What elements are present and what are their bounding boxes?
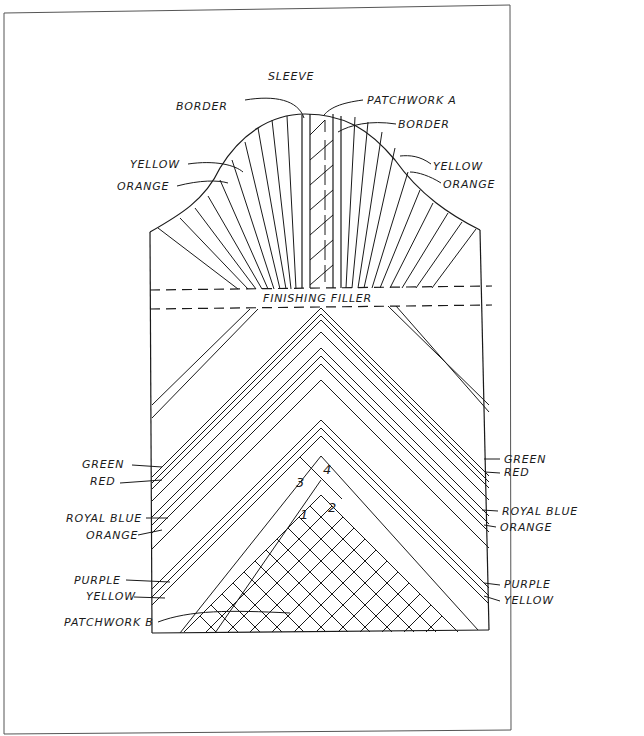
- cap-ray-right: [380, 190, 420, 288]
- hatch-line: [255, 561, 326, 632]
- chevron-line: [152, 348, 321, 517]
- section-number-1: 1: [300, 507, 308, 522]
- label-border-left: BORDER: [176, 100, 228, 113]
- hatch-line: [382, 594, 420, 632]
- label-right-purple: PURPLE: [504, 578, 551, 591]
- chevron-line: [321, 428, 489, 596]
- filler-dashed-top: [150, 286, 492, 290]
- label-left-orange: ORANGE: [86, 529, 138, 542]
- label-left-royal-blue: ROYAL BLUE: [66, 512, 142, 525]
- cap-ray-right: [390, 203, 433, 288]
- chevron-line: [152, 380, 321, 549]
- chevron-line: [321, 314, 489, 482]
- label-right-green: GREEN: [504, 453, 546, 466]
- chevron-line: [152, 356, 321, 525]
- finishing-filler-label: FINISHING FILLER: [263, 292, 372, 305]
- label-right-red: RED: [504, 466, 529, 479]
- chevron-line: [215, 480, 321, 633]
- arrow-right-orange: [484, 525, 496, 527]
- sleeve-bottom-edge: [152, 630, 489, 633]
- chevron-line: [152, 320, 321, 489]
- hatch-line: [277, 539, 370, 632]
- label-left-purple: PURPLE: [74, 574, 121, 587]
- label-border-right: BORDER: [398, 118, 450, 131]
- label-left-yellow: YELLOW: [86, 590, 136, 603]
- section-number-2: 2: [328, 500, 336, 515]
- hatch-line: [272, 539, 365, 632]
- arrow-left-red: [120, 480, 162, 483]
- sleeve-right-edge: [480, 230, 489, 630]
- label-patchwork-a: PATCHWORK A: [367, 94, 457, 107]
- cap-ray-right: [352, 122, 368, 288]
- label-patchwork-b: PATCHWORK B: [64, 616, 154, 629]
- arrow-yellow-left: [188, 163, 243, 172]
- label-orange-right: ORANGE: [443, 178, 495, 191]
- chevron-line: [396, 306, 489, 412]
- cap-ray-right: [432, 229, 476, 288]
- cap-radiating-strips: [158, 116, 476, 289]
- sleeve-left-edge: [150, 232, 152, 633]
- cap-ray-left: [180, 218, 248, 289]
- arrow-left-orange: [138, 530, 162, 535]
- chevron-line: [152, 364, 321, 533]
- label-yellow-right: YELLOW: [433, 160, 483, 173]
- label-right-yellow: YELLOW: [504, 594, 554, 607]
- chevron-line: [321, 364, 489, 532]
- label-yellow-left: YELLOW: [130, 158, 180, 171]
- section-number-3: 3: [296, 475, 304, 490]
- hatch-line: [244, 572, 304, 632]
- chevron-line: [321, 320, 489, 488]
- chevron-line: [152, 309, 250, 405]
- chevron-line: [321, 420, 489, 588]
- hatch-line: [404, 605, 431, 632]
- chevron-line: [321, 356, 489, 524]
- cap-ray-left: [195, 208, 256, 289]
- hatch-line: [211, 605, 238, 632]
- arrow-orange-left: [177, 181, 228, 186]
- chevron-line: [321, 380, 489, 548]
- chevron-line: [321, 332, 489, 500]
- chevron-line: [152, 428, 321, 597]
- hatch-line: [321, 495, 458, 632]
- chevron-line: [152, 309, 258, 418]
- arrow-right-red: [485, 472, 500, 473]
- hatch-line: [250, 528, 354, 632]
- chevron-line: [152, 314, 321, 483]
- arrow-patchwork-a: [324, 100, 363, 115]
- label-orange-left: ORANGE: [117, 180, 169, 193]
- cap-ray-right: [346, 117, 355, 288]
- label-right-orange: ORANGE: [500, 521, 552, 534]
- patchwork-a-strip: [302, 114, 341, 288]
- hatch-line: [299, 517, 414, 632]
- cap-ray-right: [358, 132, 382, 288]
- chevron-line: [321, 308, 489, 476]
- arrow-right-yellow: [484, 596, 500, 601]
- chevron-line: [300, 457, 342, 499]
- title-sleeve: SLEEVE: [268, 70, 314, 83]
- hatch-line: [228, 517, 343, 632]
- cap-ray-right: [372, 172, 408, 288]
- arrow-orange-right: [410, 172, 441, 183]
- sleeve-diagram: SLEEVE FINISHING FILLER 1 2 3 4 BORDER P…: [0, 0, 644, 736]
- section-number-4: 4: [323, 462, 331, 477]
- arrow-left-green: [132, 465, 162, 467]
- hatch-line: [316, 561, 387, 632]
- label-left-red: RED: [90, 475, 115, 488]
- cap-ray-left: [232, 160, 274, 289]
- label-left-green: GREEN: [82, 458, 124, 471]
- hatch-line: [338, 572, 398, 632]
- label-right-royal-blue: ROYAL BLUE: [502, 505, 578, 518]
- hatch-line: [288, 528, 392, 632]
- arrow-left-purple: [126, 580, 170, 582]
- chevron-line: [321, 348, 489, 516]
- arrow-yellow-right: [400, 156, 431, 164]
- hatch-line: [222, 594, 260, 632]
